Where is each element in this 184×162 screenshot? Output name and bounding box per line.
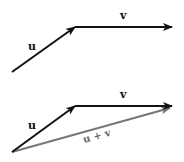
vector-sum-label: u + v xyxy=(82,126,113,145)
vector-v-label: v xyxy=(119,9,127,22)
vector-addition-diagram: u v u v u + v xyxy=(0,0,184,162)
vector-u-label: u xyxy=(28,40,36,53)
vector-u-label: u xyxy=(28,119,36,132)
top-diagram: u v xyxy=(12,9,172,72)
bottom-diagram: u v u + v xyxy=(12,88,172,152)
vector-v-label: v xyxy=(119,88,127,101)
vector-u-arrow xyxy=(12,106,75,152)
vector-u-arrow xyxy=(12,27,75,72)
